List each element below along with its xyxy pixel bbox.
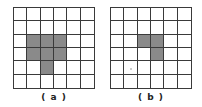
grid-cell-filled xyxy=(54,35,67,48)
grid-cell xyxy=(14,8,27,21)
grid-cell xyxy=(164,8,177,21)
grid-cell xyxy=(27,61,40,74)
grid-cell xyxy=(111,75,124,88)
grid-b xyxy=(110,7,192,89)
grid-cell xyxy=(138,61,151,74)
grid-cell xyxy=(111,61,124,74)
grid-cell xyxy=(164,48,177,61)
grid-cell xyxy=(41,75,54,88)
grid-cell xyxy=(14,75,27,88)
grid-cell xyxy=(67,48,80,61)
grid-cell xyxy=(111,35,124,48)
grid-cell xyxy=(14,21,27,34)
grid-cell xyxy=(54,75,67,88)
grid-cell xyxy=(124,21,137,34)
grid-a xyxy=(13,7,95,89)
grid-cell-filled xyxy=(27,35,40,48)
grid-cell xyxy=(124,35,137,48)
grid-cell xyxy=(164,35,177,48)
grid-cell xyxy=(81,48,94,61)
grid-cell xyxy=(67,61,80,74)
panel-b-label: ( b ) xyxy=(110,92,192,102)
grid-cell xyxy=(111,48,124,61)
grid-cell xyxy=(27,21,40,34)
grid-cell xyxy=(178,61,191,74)
grid-cell xyxy=(81,75,94,88)
grid-cell xyxy=(14,48,27,61)
grid-cell xyxy=(67,21,80,34)
grid-cell xyxy=(151,75,164,88)
grid-cell xyxy=(138,21,151,34)
grid-cell xyxy=(54,8,67,21)
grid-cell-filled xyxy=(54,48,67,61)
grid-cell xyxy=(124,8,137,21)
grid-cell xyxy=(178,48,191,61)
grid-cell-filled xyxy=(138,35,151,48)
grid-cell xyxy=(67,35,80,48)
grid-cell xyxy=(124,48,137,61)
grid-cell-filled xyxy=(27,48,40,61)
stray-dot xyxy=(130,68,132,70)
grid-cell xyxy=(151,21,164,34)
grid-cell xyxy=(81,35,94,48)
grid-cell xyxy=(41,8,54,21)
grid-cell xyxy=(81,8,94,21)
grid-cell xyxy=(178,8,191,21)
grid-cell xyxy=(27,8,40,21)
grid-cell xyxy=(14,61,27,74)
grid-cell-filled xyxy=(151,35,164,48)
grid-cell xyxy=(54,21,67,34)
grid-cell-filled xyxy=(151,48,164,61)
grid-cell-filled xyxy=(41,35,54,48)
grid-cell-filled xyxy=(41,61,54,74)
grid-cell xyxy=(54,61,67,74)
grid-cell xyxy=(164,75,177,88)
grid-cell xyxy=(111,21,124,34)
grid-cell xyxy=(178,35,191,48)
grid-cell xyxy=(138,75,151,88)
grid-cell xyxy=(81,21,94,34)
panel-a xyxy=(13,7,95,89)
grid-cell xyxy=(138,48,151,61)
grid-cell xyxy=(151,8,164,21)
grid-cell xyxy=(164,21,177,34)
grid-cell xyxy=(67,8,80,21)
grid-cell xyxy=(14,35,27,48)
grid-cell xyxy=(178,21,191,34)
grid-cell xyxy=(124,75,137,88)
grid-cell xyxy=(164,61,177,74)
grid-cell xyxy=(67,75,80,88)
grid-cell xyxy=(81,61,94,74)
grid-cell-filled xyxy=(41,48,54,61)
panel-b xyxy=(110,7,192,89)
grid-cell xyxy=(27,75,40,88)
grid-cell xyxy=(151,61,164,74)
grid-cell xyxy=(178,75,191,88)
grid-cell xyxy=(41,21,54,34)
grid-cell xyxy=(111,8,124,21)
panel-a-label: ( a ) xyxy=(13,92,95,102)
grid-cell xyxy=(138,8,151,21)
